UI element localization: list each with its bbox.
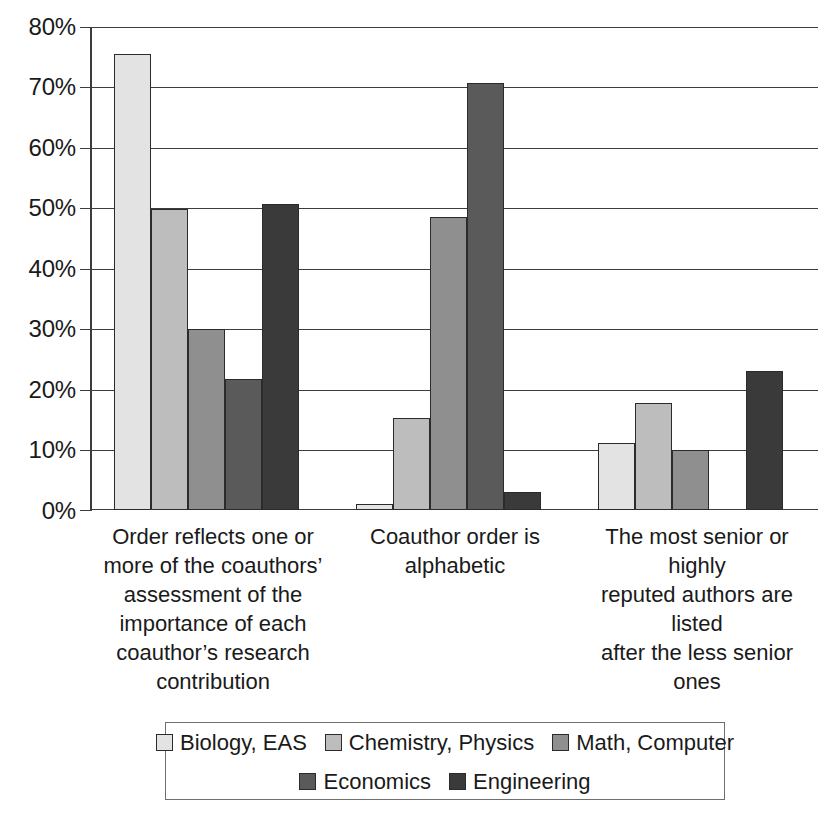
x-axis-label-0-line-2: assessment of the (92, 580, 334, 609)
bar-g1-math-computer (430, 217, 467, 510)
legend: Biology, EAS Chemistry, Physics Math, Co… (165, 722, 725, 800)
bar-g2-math-computer (672, 450, 709, 510)
bar-g1-chemistry-physics (393, 418, 430, 510)
x-axis-label-0-line-5: contribution (92, 667, 334, 696)
y-tick-label-20: 20% (4, 378, 76, 402)
bar-g2-engineering (746, 371, 783, 510)
x-axis-label-2: The most senior or highly reputed author… (576, 522, 818, 696)
legend-swatch-icon-engineering (449, 773, 466, 790)
y-tick-label-60: 60% (4, 136, 76, 160)
y-tick-label-10: 10% (4, 438, 76, 462)
bar-g0-engineering (262, 204, 299, 510)
legend-item-chemistry-physics[interactable]: Chemistry, Physics (325, 732, 534, 754)
bar-g1-engineering (504, 492, 541, 510)
bar-chart: 80% 70% 60% 50% 40% 30% 20% 10% 0% (0, 0, 837, 834)
bar-group-2 (598, 27, 788, 510)
legend-row-1: Biology, EAS Chemistry, Physics Math, Co… (166, 723, 724, 762)
legend-label-economics: Economics (323, 771, 431, 793)
legend-swatch-icon-economics (299, 773, 316, 790)
bar-g1-economics (467, 83, 504, 510)
legend-item-biology-eas[interactable]: Biology, EAS (156, 732, 307, 754)
legend-label-chemistry-physics: Chemistry, Physics (349, 732, 534, 754)
x-axis-label-0-line-1: more of the coauthors’ (92, 551, 334, 580)
x-axis-labels: Order reflects one or more of the coauth… (92, 522, 818, 692)
bar-g0-chemistry-physics (151, 209, 188, 510)
x-axis-label-0: Order reflects one or more of the coauth… (92, 522, 334, 696)
legend-label-engineering: Engineering (473, 771, 590, 793)
y-tick-label-70: 70% (4, 75, 76, 99)
x-axis-label-2-line-2: after the less senior ones (576, 638, 818, 696)
bar-group-0 (114, 27, 304, 510)
legend-item-economics[interactable]: Economics (299, 771, 431, 793)
legend-item-engineering[interactable]: Engineering (449, 771, 590, 793)
x-axis-label-1-line-1: alphabetic (334, 551, 576, 580)
bar-g2-chemistry-physics (635, 403, 672, 510)
legend-swatch-icon-chemistry-physics (325, 734, 342, 751)
bar-group-1 (356, 27, 546, 510)
y-tick-label-40: 40% (4, 257, 76, 281)
legend-item-math-computer[interactable]: Math, Computer (552, 732, 734, 754)
x-axis-label-0-line-4: coauthor’s research (92, 638, 334, 667)
x-axis-label-2-line-1: reputed authors are listed (576, 580, 818, 638)
x-axis-label-0-line-0: Order reflects one or (92, 522, 334, 551)
y-tick-label-30: 30% (4, 317, 76, 341)
bar-g0-economics (225, 379, 262, 510)
legend-row-2: Economics Engineering (166, 762, 724, 801)
x-axis-label-1: Coauthor order is alphabetic (334, 522, 576, 580)
y-tick-label-50: 50% (4, 196, 76, 220)
legend-label-math-computer: Math, Computer (576, 732, 734, 754)
x-axis-label-2-line-0: The most senior or highly (576, 522, 818, 580)
bar-g1-biology-eas (356, 504, 393, 510)
x-axis-label-0-line-3: importance of each (92, 609, 334, 638)
legend-swatch-icon-math-computer (552, 734, 569, 751)
plot-area (90, 27, 818, 510)
legend-swatch-icon-biology-eas (156, 734, 173, 751)
y-tick-label-80: 80% (4, 15, 76, 39)
bar-g0-math-computer (188, 329, 225, 510)
y-tick-label-0: 0% (4, 499, 76, 523)
bar-g2-biology-eas (598, 443, 635, 510)
x-axis-label-1-line-0: Coauthor order is (334, 522, 576, 551)
legend-label-biology-eas: Biology, EAS (180, 732, 307, 754)
bar-g0-biology-eas (114, 54, 151, 510)
